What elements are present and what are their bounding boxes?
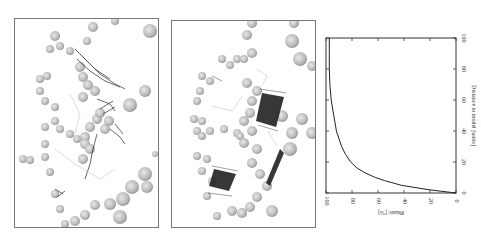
data-line [329, 38, 456, 193]
x-tick-label: 40 [461, 128, 467, 134]
y-tick-label: 100 [324, 197, 330, 206]
y-tick-label: 20 [428, 198, 434, 204]
x-tick-label: 0 [461, 192, 467, 195]
structure-panel-2 [171, 20, 316, 228]
molecule-render-1 [15, 19, 158, 227]
y-axis-label: Phasic [%] [378, 209, 404, 216]
y-tick-label: 60 [376, 198, 382, 204]
x-tick-label: 100 [461, 34, 467, 43]
x-tick-label: 80 [461, 66, 467, 72]
y-tick-label: 0 [454, 200, 460, 203]
x-tick-label: 20 [461, 159, 467, 165]
structure-panel-1 [14, 18, 159, 228]
y-tick-label: 40 [402, 198, 408, 204]
chart-svg: 020406080100020406080100Distance to mode… [318, 20, 481, 235]
x-axis-label: Distance to model [units] [470, 85, 477, 146]
y-tick-label: 80 [350, 198, 356, 204]
x-tick-label: 60 [461, 97, 467, 103]
plot-frame [326, 38, 456, 193]
line-chart: 020406080100020406080100Distance to mode… [318, 20, 481, 235]
molecule-render-2 [172, 21, 315, 227]
